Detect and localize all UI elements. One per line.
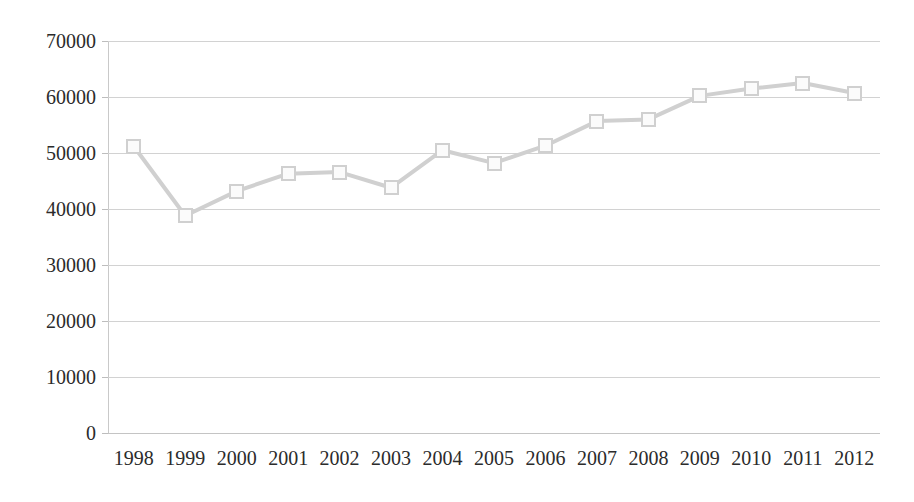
- data-point-2002: [332, 165, 347, 180]
- data-point-1999: [178, 208, 193, 223]
- x-tick-label-2011: 2011: [783, 447, 822, 470]
- y-tick-mark-0: [102, 433, 108, 434]
- y-axis-tick-labels: 010000200003000040000500006000070000: [0, 41, 96, 433]
- data-point-2007: [589, 114, 604, 129]
- data-point-1998: [126, 139, 141, 154]
- x-tick-label-2004: 2004: [423, 447, 463, 470]
- data-point-2008: [641, 112, 656, 127]
- x-tick-label-2009: 2009: [680, 447, 720, 470]
- y-tick-label-40000: 40000: [0, 198, 96, 221]
- data-point-2009: [692, 88, 707, 103]
- x-tick-label-1998: 1998: [114, 447, 154, 470]
- x-tick-label-1999: 1999: [165, 447, 205, 470]
- x-tick-label-2010: 2010: [731, 447, 771, 470]
- y-tick-label-30000: 30000: [0, 254, 96, 277]
- x-tick-label-2002: 2002: [320, 447, 360, 470]
- data-point-2006: [538, 138, 553, 153]
- x-tick-label-2012: 2012: [834, 447, 874, 470]
- x-tick-label-2003: 2003: [371, 447, 411, 470]
- series-line: [108, 41, 880, 433]
- data-point-2000: [229, 184, 244, 199]
- data-point-2011: [795, 76, 810, 91]
- data-point-2001: [281, 166, 296, 181]
- data-point-2010: [744, 81, 759, 96]
- x-tick-label-2001: 2001: [268, 447, 308, 470]
- x-tick-label-2008: 2008: [628, 447, 668, 470]
- plot-area: [108, 41, 880, 433]
- y-tick-label-50000: 50000: [0, 142, 96, 165]
- y-tick-label-70000: 70000: [0, 30, 96, 53]
- x-tick-label-2005: 2005: [474, 447, 514, 470]
- data-point-2004: [435, 143, 450, 158]
- line-chart: 010000200003000040000500006000070000 199…: [0, 0, 914, 502]
- x-tick-label-2006: 2006: [525, 447, 565, 470]
- x-tick-label-2000: 2000: [217, 447, 257, 470]
- y-tick-label-10000: 10000: [0, 366, 96, 389]
- data-point-2005: [487, 156, 502, 171]
- x-tick-label-2007: 2007: [577, 447, 617, 470]
- gridline-0: [108, 433, 880, 434]
- y-tick-label-20000: 20000: [0, 310, 96, 333]
- x-axis-tick-labels: 1998199920002001200220032004200520062007…: [108, 447, 880, 481]
- data-point-2003: [384, 180, 399, 195]
- data-point-2012: [847, 86, 862, 101]
- y-tick-label-0: 0: [0, 422, 96, 445]
- y-tick-label-60000: 60000: [0, 86, 96, 109]
